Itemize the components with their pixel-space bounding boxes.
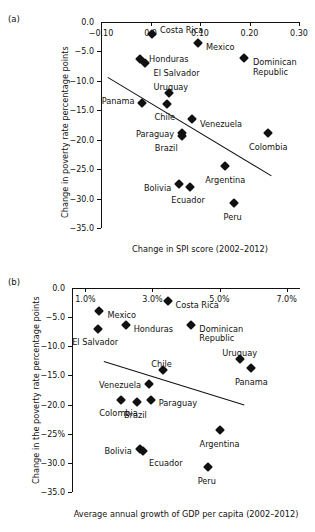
data-point (215, 425, 225, 435)
y-tick (97, 169, 101, 170)
data-point-label: Ecuador (149, 459, 182, 469)
y-tick (97, 51, 101, 52)
data-point-label: El Salvador (72, 338, 118, 348)
x-tick (287, 288, 288, 292)
data-point-label: Panama (102, 97, 135, 107)
data-point (95, 306, 105, 316)
y-tick-label: 0.0 (32, 284, 65, 293)
data-point (116, 395, 126, 405)
x-axis-line (72, 288, 300, 289)
data-point (163, 296, 173, 306)
y-axis-line (72, 288, 73, 492)
data-point (93, 324, 103, 334)
data-point-label: Ecuador (171, 196, 204, 206)
data-point (174, 179, 184, 189)
x-tick-label: 3.0% (142, 295, 162, 304)
data-point-label: Dominican Republic (199, 325, 239, 344)
x-tick (299, 22, 300, 26)
data-point (186, 320, 196, 330)
data-point (185, 182, 195, 192)
data-point-label: Costa Rica (160, 26, 203, 36)
data-point-label: Bolivia (104, 447, 131, 457)
data-point-label: Uruguay (153, 83, 188, 93)
data-point-label: Paraguay (136, 130, 174, 140)
data-point-label: El Salvador (154, 69, 200, 79)
data-point (144, 379, 154, 389)
trend-line (108, 77, 272, 176)
y-axis-title: Change in the poverty rate percentage po… (31, 296, 41, 484)
data-point (263, 128, 273, 138)
x-tick-label: 0.20 (241, 29, 259, 38)
data-point-label: Brazil (155, 144, 178, 154)
data-point-label: Paraguay (159, 399, 197, 409)
data-point (146, 395, 156, 405)
data-point (132, 397, 142, 407)
data-point-label: Dominican Republic (253, 58, 293, 77)
chart-panel-a: (a) −0.100.00.100.200.300.0−5.0−10.0−15.… (0, 0, 315, 266)
x-tick-label: 7.0% (276, 295, 296, 304)
y-tick-label: −35.0 (32, 488, 65, 497)
data-point (162, 99, 172, 109)
data-point (229, 198, 239, 208)
y-tick (68, 434, 72, 435)
data-point-label: Honduras (149, 55, 188, 65)
x-tick (85, 288, 86, 292)
data-point-label: Chile (155, 113, 176, 123)
y-tick (97, 199, 101, 200)
x-tick (152, 288, 153, 292)
data-point-label: Costa Rica (176, 301, 219, 311)
y-tick (97, 110, 101, 111)
data-point-label: Peru (224, 213, 242, 223)
data-point-label: Panama (235, 378, 268, 388)
x-axis-title: Average annual growth of GDP per capita … (74, 509, 299, 519)
data-point-label: Peru (198, 477, 216, 487)
data-point-label: Mexico (107, 311, 136, 321)
x-tick-label: −0.10 (89, 29, 114, 38)
data-point (246, 363, 256, 373)
x-axis-title: Change in SPI score (2002–2012) (132, 244, 268, 254)
y-tick (97, 228, 101, 229)
data-point (220, 161, 230, 171)
y-tick (97, 81, 101, 82)
x-tick (220, 288, 221, 292)
x-tick-label: 1.0% (75, 295, 95, 304)
x-tick (250, 22, 251, 26)
y-tick-label: −35.0 (61, 224, 94, 233)
data-point-label: Argentina (200, 440, 240, 450)
y-axis-title: Change in poverty rate percentage points (60, 46, 70, 218)
y-tick (68, 463, 72, 464)
data-point-label: Honduras (134, 325, 173, 335)
y-tick (68, 375, 72, 376)
data-point-label: Argentina (205, 176, 245, 186)
x-tick-label: 0.30 (290, 29, 308, 38)
data-point-label: Bolivia (144, 184, 171, 194)
chart-panel-b: (b) 1.0%3.0%5.0%7.0%0.0−5.0−10.0−15.0−20… (0, 266, 315, 532)
y-tick (97, 140, 101, 141)
data-point (187, 114, 197, 124)
plot-area-a: −0.100.00.100.200.300.0−5.0−10.0−15.0−20… (0, 0, 315, 266)
data-point-label: Colombia (249, 143, 287, 153)
y-tick (68, 405, 72, 406)
data-point-label: Mexico (206, 43, 235, 53)
data-point (203, 462, 213, 472)
plot-area-b: 1.0%3.0%5.0%7.0%0.0−5.0−10.0−15.0−20.0−2… (0, 266, 315, 532)
data-point-label: Colombia (99, 409, 137, 419)
y-tick (68, 317, 72, 318)
y-tick (68, 492, 72, 493)
y-tick-label: 0.0 (61, 18, 94, 27)
y-axis-line (101, 22, 102, 228)
data-point-label: Chile (151, 360, 172, 370)
data-point-label: Venezuela (99, 381, 141, 391)
data-point (193, 38, 203, 48)
data-point (138, 446, 148, 456)
data-point (239, 54, 249, 64)
data-point (121, 320, 131, 330)
data-point-label: Uruguay (222, 349, 257, 359)
x-tick (101, 22, 102, 26)
x-tick (151, 22, 152, 26)
data-point-label: Venezuela (200, 120, 242, 130)
